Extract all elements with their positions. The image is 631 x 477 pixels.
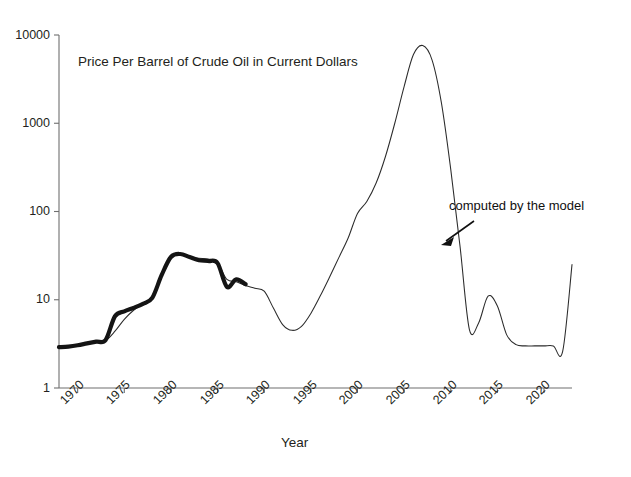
annotation-arrow-line <box>446 221 474 241</box>
chart-title: Price Per Barrel of Crude Oil in Current… <box>78 54 358 69</box>
series-line-observed <box>59 254 246 347</box>
y-axis-tick-label: 10000 <box>0 29 50 42</box>
y-axis-tick-label: 1000 <box>0 117 50 130</box>
chart-canvas: Price Per Barrel of Crude Oil in Current… <box>0 0 631 477</box>
x-axis-title: Year <box>281 435 308 450</box>
y-axis-ticks <box>54 35 544 393</box>
annotation-arrow-head <box>441 237 454 246</box>
y-axis-tick-label: 100 <box>0 205 50 218</box>
annotation-label: computed by the model <box>449 198 584 213</box>
y-axis-tick-label: 1 <box>0 382 50 395</box>
chart-plot-area <box>0 0 631 477</box>
y-axis-tick-label: 10 <box>0 293 50 306</box>
